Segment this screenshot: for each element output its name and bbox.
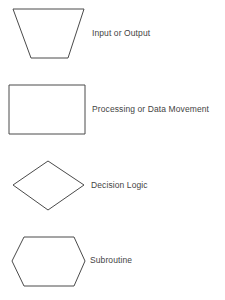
trapezoid-input-output-symbol — [13, 9, 84, 58]
processing-label: Processing or Data Movement — [92, 104, 209, 114]
hexagon-subroutine-symbol — [12, 237, 85, 286]
input-output-label: Input or Output — [92, 28, 150, 38]
subroutine-label: Subroutine — [90, 255, 132, 265]
rectangle-processing-symbol — [9, 85, 85, 134]
diamond-decision-symbol — [13, 161, 84, 210]
decision-logic-label: Decision Logic — [91, 180, 148, 190]
